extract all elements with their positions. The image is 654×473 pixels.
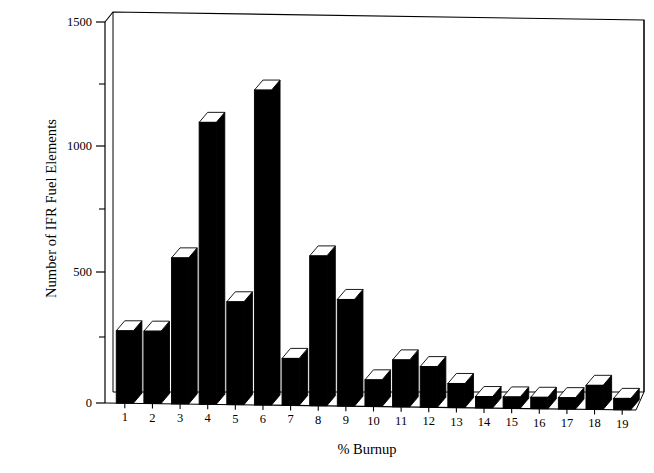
x-tick-label-19: 19 xyxy=(602,418,642,430)
bar-5 xyxy=(227,292,253,405)
x-axis-title-text: % Burnup xyxy=(337,441,396,457)
bar-4 xyxy=(199,112,225,404)
bar-13 xyxy=(448,373,474,407)
bar-15 xyxy=(503,387,529,408)
bar-3 xyxy=(172,248,198,404)
bars-group xyxy=(116,80,639,410)
bar-9 xyxy=(337,289,363,406)
bar-16 xyxy=(531,387,557,408)
bar-12 xyxy=(420,357,446,408)
chart-canvas xyxy=(0,0,654,473)
bar-2 xyxy=(144,321,170,403)
bar-7 xyxy=(282,348,308,405)
y-axis-ticks xyxy=(96,22,105,403)
bar-11 xyxy=(393,350,419,407)
x-axis-title: % Burnup xyxy=(0,441,654,458)
bar-chart-figure: Number of IFR Fuel Elements xyxy=(0,0,654,473)
bar-18 xyxy=(586,375,612,409)
bar-1 xyxy=(116,321,142,403)
bar-6 xyxy=(254,80,280,405)
bar-8 xyxy=(310,246,336,406)
plot-area: 1500 1000 500 0 123456789101112131415161… xyxy=(0,0,654,473)
y-tick-label-1000: 1000 xyxy=(48,140,92,152)
bar-10 xyxy=(365,370,391,407)
y-tick-label-500: 500 xyxy=(48,266,92,278)
bar-17 xyxy=(558,388,584,409)
bar-14 xyxy=(475,387,501,408)
y-tick-label-0: 0 xyxy=(48,397,92,409)
y-tick-label-1500: 1500 xyxy=(48,16,92,28)
